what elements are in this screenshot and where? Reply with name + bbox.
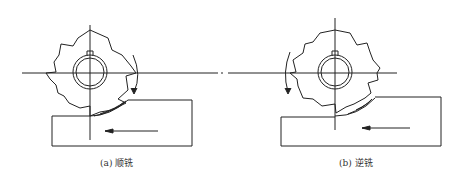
workpiece-a — [52, 100, 192, 146]
caption-conventional-milling: (b) 逆铣 — [339, 156, 373, 169]
panel-a-climb-milling — [46, 25, 192, 146]
panel-b-conventional-milling — [281, 18, 441, 146]
rotation-arrow-ccw — [285, 52, 290, 92]
caption-climb-milling: (a) 顺铣 — [100, 156, 133, 169]
chip-b — [335, 98, 375, 116]
milling-diagram — [0, 0, 462, 181]
workpiece-b — [281, 97, 441, 146]
